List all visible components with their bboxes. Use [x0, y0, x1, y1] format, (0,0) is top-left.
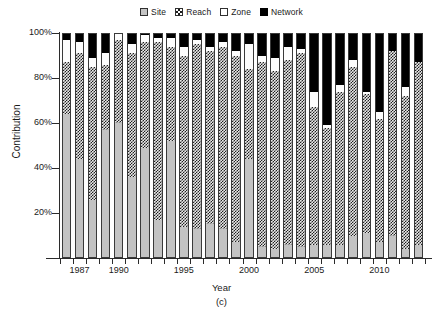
bar-segment-network — [101, 33, 111, 53]
bar-segment-network — [88, 33, 98, 58]
bar-segment-zone — [218, 42, 228, 47]
bar-segment-network — [257, 33, 267, 56]
bar-segment-reach — [257, 62, 267, 247]
bar-segment-zone — [335, 85, 345, 92]
legend-item-reach: Reach — [175, 8, 211, 17]
bar-segment-network — [270, 33, 280, 58]
bar-segment-reach — [348, 67, 358, 236]
bar-1991 — [127, 33, 137, 258]
bar-top-edge — [192, 33, 202, 34]
bar-segment-network — [62, 33, 72, 40]
x-axis-line — [46, 258, 432, 259]
x-tick — [295, 259, 296, 264]
bar-top-edge — [62, 33, 72, 34]
bar-segment-zone — [348, 60, 358, 67]
bar-segment-reach — [414, 62, 424, 244]
bar-segment-zone — [192, 40, 202, 45]
bar-segment-site — [375, 242, 385, 258]
bar-top-edge — [75, 33, 85, 34]
bar-segment-zone — [375, 112, 385, 119]
x-tick — [334, 259, 335, 264]
bar-1986 — [62, 33, 72, 258]
bar-top-edge — [244, 33, 254, 34]
bar-segment-site — [309, 245, 319, 259]
bar-2004 — [296, 33, 306, 258]
bar-top-edge — [322, 33, 332, 34]
bar-segment-network — [127, 33, 137, 44]
bar-segment-reach — [375, 119, 385, 243]
y-tick — [52, 168, 59, 169]
bar-top-edge — [257, 33, 267, 34]
bar-segment-network — [179, 33, 189, 47]
x-tick — [216, 259, 217, 264]
x-tick — [373, 259, 374, 264]
legend-swatch-zone-icon — [220, 8, 228, 16]
bar-segment-site — [192, 229, 202, 258]
bar-segment-reach — [88, 67, 98, 200]
bar-top-edge — [401, 33, 411, 34]
bar-segment-network — [414, 33, 424, 62]
bar-top-edge — [88, 33, 98, 34]
plot-area — [60, 33, 425, 258]
y-tick — [52, 78, 59, 79]
bar-segment-zone — [88, 58, 98, 67]
x-tick — [412, 259, 413, 264]
bar-1990 — [114, 33, 124, 258]
bar-segment-reach — [296, 53, 306, 247]
bar-top-edge — [375, 33, 385, 34]
bar-segment-site — [114, 123, 124, 258]
x-tick — [164, 259, 165, 264]
panel-label: (c) — [0, 296, 443, 307]
bar-segment-zone — [296, 49, 306, 54]
x-tick — [73, 259, 74, 264]
bar-2013 — [414, 33, 424, 258]
bar-top-edge — [283, 33, 293, 34]
bar-segment-reach — [283, 60, 293, 245]
y-tick-label: 80% — [18, 73, 52, 82]
bar-segment-zone — [75, 42, 85, 53]
bar-2010 — [375, 33, 385, 258]
bar-segment-network — [205, 33, 215, 47]
x-tick — [347, 259, 348, 264]
bar-segment-site — [101, 130, 111, 258]
bar-segment-site — [205, 224, 215, 258]
bar-segment-site — [62, 114, 72, 258]
bar-1998 — [218, 33, 228, 258]
bar-segment-site — [166, 141, 176, 258]
legend-item-zone: Zone — [220, 8, 251, 17]
bar-segment-zone — [114, 33, 124, 40]
bar-segment-zone — [322, 125, 332, 127]
bar-top-edge — [414, 33, 424, 34]
bar-1988 — [88, 33, 98, 258]
y-tick-label: 100% — [18, 28, 52, 37]
bar-segment-reach — [244, 69, 254, 159]
x-tick — [256, 259, 257, 264]
bar-top-edge — [231, 33, 241, 34]
bar-segment-network — [75, 33, 85, 42]
bar-segment-network — [218, 33, 228, 42]
bar-1993 — [153, 33, 163, 258]
bar-segment-reach — [270, 71, 280, 249]
bar-2007 — [335, 33, 345, 258]
bar-2008 — [348, 33, 358, 258]
x-tick — [190, 259, 191, 264]
bar-top-edge — [166, 33, 176, 34]
bar-1987 — [75, 33, 85, 258]
bar-segment-site — [362, 233, 372, 258]
x-tick — [60, 259, 61, 264]
bar-segment-network — [309, 33, 319, 92]
x-tick — [99, 259, 100, 264]
bar-top-edge — [153, 33, 163, 34]
x-tick — [138, 259, 139, 264]
bar-2009 — [362, 33, 372, 258]
bar-segment-reach — [179, 56, 189, 227]
bar-segment-zone — [140, 35, 150, 42]
bar-segment-reach — [388, 51, 398, 236]
bar-2000 — [244, 33, 254, 258]
bar-segment-site — [414, 245, 424, 259]
y-axis-tick-labels: 20%40%60%80%100% — [8, 0, 52, 314]
bar-top-edge — [348, 33, 358, 34]
chart-legend: SiteReachZoneNetwork — [0, 8, 443, 17]
x-tick — [360, 259, 361, 264]
bar-top-edge — [101, 33, 111, 34]
